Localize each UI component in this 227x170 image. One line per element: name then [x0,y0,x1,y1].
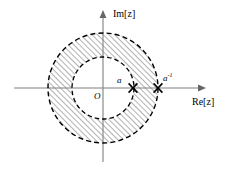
imaginary-axis-label: Im[z] [113,9,135,19]
pole-label-a-base: a [117,75,122,85]
pole-label-a-inverse-exponent: -1 [168,72,173,78]
real-axis-label: Re[z] [192,97,214,107]
pole-label-a-inverse: a-1 [163,74,173,83]
origin-label: O [94,92,101,101]
complex-plane-figure: Im[z] Re[z] O a a-1 [0,0,227,170]
pole-label-a: a [117,76,122,85]
shaded-annulus-region [0,0,227,170]
figure-canvas [0,0,227,170]
